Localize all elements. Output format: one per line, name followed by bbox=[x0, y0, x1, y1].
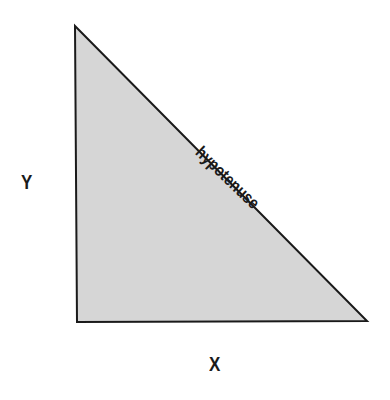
y-axis-label: Y bbox=[21, 171, 32, 194]
x-axis-label: X bbox=[209, 353, 220, 376]
triangle-diagram bbox=[0, 0, 390, 400]
